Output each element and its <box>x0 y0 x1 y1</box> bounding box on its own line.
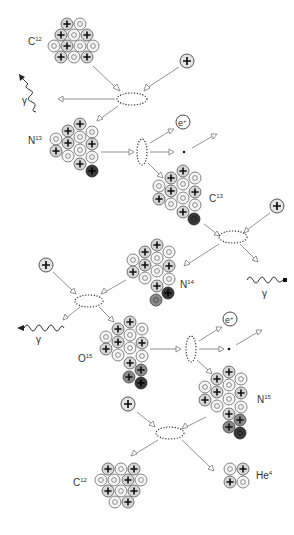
reaction-ring-3 <box>75 295 103 307</box>
reaction-ring-4 <box>156 427 184 439</box>
gamma-wave-3 <box>24 325 64 331</box>
nucleus-c12-bottom <box>95 463 147 508</box>
nucleus-o15 <box>100 316 148 389</box>
neutrino-2 <box>228 348 231 351</box>
nucleus-he4 <box>224 463 249 488</box>
nucleus-n14 <box>127 239 175 306</box>
gamma-wave-2 <box>247 277 283 283</box>
decay-ring-1 <box>137 139 147 165</box>
label-he4: He4 <box>256 470 273 481</box>
proton-3 <box>39 258 53 272</box>
nucleus-c12-top <box>48 18 99 63</box>
label-n15: N15 <box>257 394 272 405</box>
gamma-label-1: γ <box>22 95 27 106</box>
label-o15: O15 <box>78 353 93 364</box>
nucleus-n15 <box>199 366 247 439</box>
proton-2 <box>270 199 284 213</box>
label-n14: N14 <box>180 279 195 290</box>
label-c12-top: C12 <box>28 36 43 47</box>
positron-1: e+ <box>176 115 190 129</box>
reaction-ring-2 <box>219 231 247 243</box>
gamma-label-3: γ <box>36 334 41 345</box>
positron-2: e+ <box>223 312 237 326</box>
reaction-ring-1 <box>117 93 147 105</box>
neutrino-1 <box>183 151 186 154</box>
nucleus-n13 <box>50 118 98 177</box>
gamma-label-2: γ <box>262 288 267 299</box>
cno-cycle-diagram: C12 γ N13 e+ <box>0 0 294 535</box>
label-c12-bottom: C12 <box>73 477 88 488</box>
decay-ring-2 <box>186 336 196 362</box>
proton-4 <box>121 397 135 411</box>
proton-1 <box>180 54 194 68</box>
label-n13: N13 <box>28 135 43 146</box>
label-c13: C13 <box>209 193 224 204</box>
